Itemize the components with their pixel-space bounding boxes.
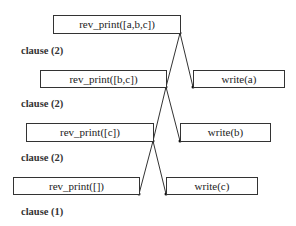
goal-label: write(c)	[195, 181, 230, 192]
goal-box-write-a: write(a)	[193, 70, 285, 88]
edge-call2-call3	[153, 87, 166, 141]
edge-call1-write-a	[180, 33, 193, 87]
goal-box-rev-print-bc: rev_print([b,c])	[40, 70, 167, 88]
edge-call3-call4	[139, 141, 153, 194]
goal-label: write(b)	[208, 127, 243, 138]
goal-box-write-b: write(b)	[180, 123, 271, 142]
goal-box-write-c: write(c)	[166, 177, 258, 195]
goal-label: rev_print([c])	[60, 127, 120, 138]
goal-box-rev-print-c: rev_print([c])	[26, 123, 154, 142]
goal-box-rev-print-abc: rev_print([a,b,c])	[53, 15, 181, 34]
clause-label: clause (2)	[21, 152, 63, 163]
goal-label: rev_print([b,c])	[69, 74, 137, 85]
edge-call3-write-c	[153, 141, 166, 194]
edge-call2-write-b	[166, 87, 180, 141]
goal-label: write(a)	[222, 74, 257, 85]
edge-call1-call2	[166, 33, 180, 87]
clause-label: clause (1)	[21, 206, 63, 217]
goal-label: rev_print([a,b,c])	[79, 19, 155, 30]
clause-label: clause (2)	[21, 98, 63, 109]
goal-box-rev-print-empty: rev_print([])	[13, 177, 140, 195]
goal-label: rev_print([])	[49, 181, 104, 192]
clause-label: clause (2)	[21, 45, 63, 56]
